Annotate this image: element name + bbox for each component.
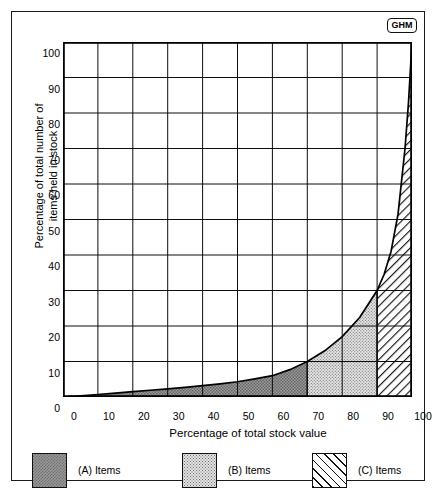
x-tick-label: 70 [303, 411, 333, 422]
legend-swatch-c-icon [312, 453, 347, 488]
x-tick-label: 10 [94, 411, 124, 422]
x-tick-label: 50 [234, 411, 264, 422]
x-tick-label: 40 [199, 411, 229, 422]
chart-legend: (A) Items (B) Items (C) Items [32, 450, 418, 490]
y-tick-label: 20 [34, 332, 60, 342]
y-tick-label: 30 [34, 297, 60, 307]
chart-svg [63, 42, 412, 397]
x-axis-title: Percentage of total stock value [74, 427, 422, 439]
y-axis-title-line1: Percentage of total number of [32, 76, 46, 276]
y-axis-title: Percentage of total number of items held… [32, 76, 60, 276]
figure-frame: GHM 0102030405060708090100 0102030405060… [11, 11, 425, 481]
x-tick-label: 20 [129, 411, 159, 422]
x-tick-label: 100 [408, 411, 438, 422]
legend-label-b: (B) Items [228, 464, 271, 476]
legend-swatch-a-icon [32, 453, 67, 488]
brand-badge-label: GHM [392, 21, 413, 30]
y-tick-label: 0 [34, 403, 60, 413]
y-tick-label: 100 [34, 48, 60, 58]
legend-item-c: (C) Items [312, 450, 401, 490]
y-tick-label: 10 [34, 368, 60, 378]
brand-badge-ghm: GHM [387, 18, 417, 33]
legend-item-b: (B) Items [182, 450, 271, 490]
region-fill-a [63, 362, 307, 398]
x-tick-label: 30 [164, 411, 194, 422]
legend-label-a: (A) Items [78, 464, 121, 476]
x-axis-tick-labels: 0102030405060708090100 [74, 411, 422, 425]
x-tick-label: 80 [338, 411, 368, 422]
x-tick-label: 60 [268, 411, 298, 422]
x-tick-label: 0 [59, 411, 89, 422]
legend-swatch-b-icon [182, 453, 217, 488]
plot-area [63, 42, 412, 397]
legend-item-a: (A) Items [32, 450, 121, 490]
legend-label-c: (C) Items [358, 464, 401, 476]
x-tick-label: 90 [373, 411, 403, 422]
y-axis-title-line2: items held in stock [46, 76, 60, 276]
